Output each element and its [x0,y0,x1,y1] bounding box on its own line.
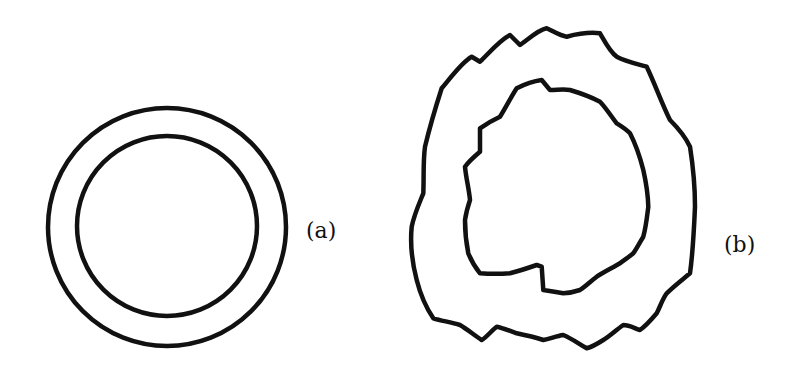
panel-b-irregular-shapes [411,28,695,348]
outer-circle [48,108,286,346]
outer-irregular-boundary [411,28,695,348]
panel-a-concentric-circles [48,108,286,346]
panel-a-label: (a) [306,220,336,242]
panel-b-label: (b) [724,234,755,256]
inner-irregular-boundary [465,80,648,293]
inner-circle [77,136,257,316]
figure-canvas [0,0,807,375]
